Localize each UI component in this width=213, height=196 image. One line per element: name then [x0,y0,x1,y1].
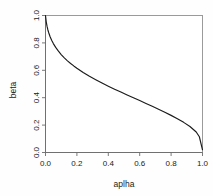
y-tick-label: 0.8 [32,37,41,49]
y-tick-label: 0.0 [32,146,41,158]
x-tick-label: 0.0 [40,159,52,168]
y-tick-label: 0.2 [32,119,41,131]
x-axis-title: aplha [114,179,135,189]
x-tick-label: 0.6 [134,159,146,168]
plot-area-border [46,16,203,153]
chart-figure: 0.00.20.40.60.81.0 0.00.20.40.60.81.0 ap… [0,0,213,196]
y-tick-label: 0.6 [32,64,41,76]
x-tick-label: 0.4 [103,159,115,168]
y-tick-label: 1.0 [32,9,41,21]
alpha-beta-tradeoff-chart: 0.00.20.40.60.81.0 0.00.20.40.60.81.0 ap… [0,0,213,196]
x-tick-label: 0.2 [71,159,83,168]
x-tick-label: 1.0 [197,159,209,168]
y-tick-label: 0.4 [32,92,41,104]
x-tick-label: 0.8 [166,159,178,168]
y-axis-title: beta [8,81,18,98]
